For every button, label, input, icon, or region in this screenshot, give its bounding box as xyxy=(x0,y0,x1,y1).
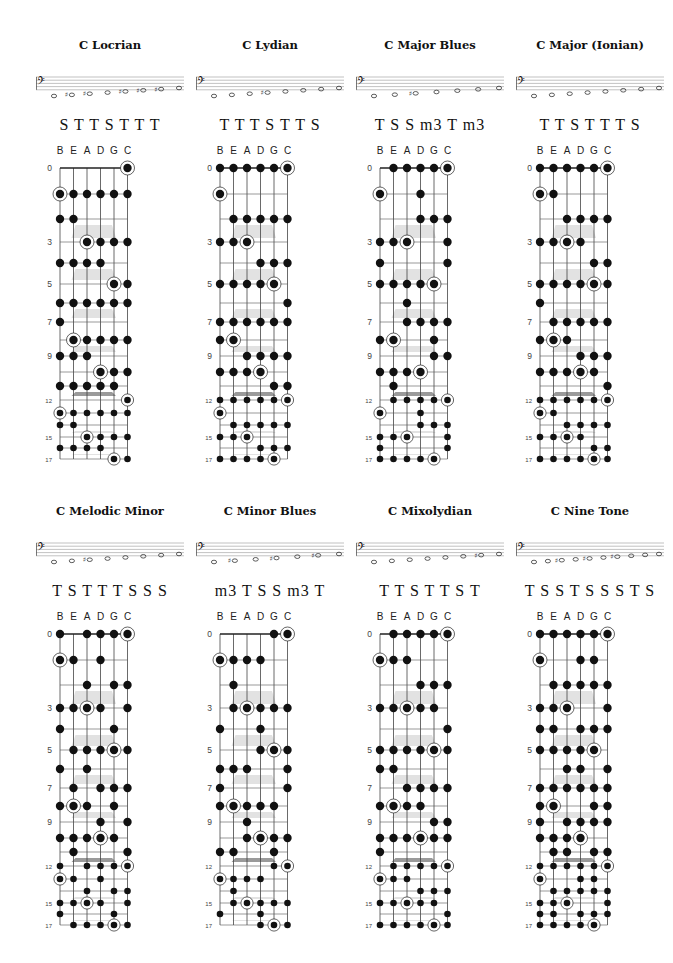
scale-note-dot xyxy=(603,215,611,223)
root-note-dot xyxy=(256,368,264,376)
root-note-dot xyxy=(123,630,131,638)
scale-note-dot xyxy=(390,456,397,463)
root-note-dot xyxy=(84,434,91,441)
scale-note-dot xyxy=(56,725,64,733)
scale-note-dot xyxy=(576,280,584,288)
scale-note-dot xyxy=(123,681,131,689)
scale-note-dot xyxy=(57,863,64,870)
root-note-dot xyxy=(536,190,544,198)
scale-note-dot xyxy=(536,280,544,288)
fret-number-label: 9 xyxy=(367,817,372,827)
scale-note-dot xyxy=(550,456,557,463)
scale-note-dot xyxy=(376,336,384,344)
scale-note-dot xyxy=(243,164,251,172)
root-note-dot xyxy=(591,922,598,929)
scale-note-dot xyxy=(270,802,278,810)
scale-note-dot xyxy=(576,725,584,733)
scale-note-dot xyxy=(537,397,544,404)
scale-note-dot xyxy=(389,164,397,172)
fret-number-label: 0 xyxy=(47,629,52,639)
scale-note-dot xyxy=(417,456,424,463)
scale-note-dot xyxy=(430,834,438,842)
fret-number-label: 0 xyxy=(527,163,532,173)
fret-inlay-marker xyxy=(232,431,277,433)
scale-note-dot xyxy=(431,888,438,895)
string-label: A xyxy=(84,145,91,156)
scale-note-dot xyxy=(270,259,278,267)
scale-note-dot xyxy=(591,445,598,452)
scale-note-dot xyxy=(110,834,118,842)
string-label: G xyxy=(270,611,278,622)
fret-inlay-marker xyxy=(392,858,437,862)
scale-note-dot xyxy=(243,215,251,223)
root-note-dot xyxy=(270,280,278,288)
scale-note-dot xyxy=(563,215,571,223)
root-note-dot xyxy=(284,863,291,870)
fret-inlay-marker xyxy=(552,858,597,862)
scale-note-dot xyxy=(577,876,584,883)
scale-note-dot xyxy=(56,215,64,223)
scale-note-dot xyxy=(430,215,438,223)
fret-number-label: 0 xyxy=(47,163,52,173)
scale-note-dot xyxy=(243,368,251,376)
scale-note-dot xyxy=(83,802,91,810)
scale-note-dot xyxy=(603,784,611,792)
root-note-dot xyxy=(83,238,91,246)
string-label: E xyxy=(390,611,397,622)
scale-note-dot xyxy=(550,434,557,441)
scale-note-dot xyxy=(403,164,411,172)
scale-note-dot xyxy=(56,765,64,773)
scale-note-dot xyxy=(84,445,91,452)
fret-inlay-marker xyxy=(552,775,597,784)
fretboard-diagram: 03579121517 xyxy=(510,504,670,944)
fret-inlay-marker xyxy=(392,691,437,704)
scale-note-dot xyxy=(83,630,91,638)
scale-note-dot xyxy=(56,704,64,712)
scale-note-dot xyxy=(69,215,77,223)
scale-note-dot xyxy=(603,765,611,773)
scale-note-dot xyxy=(563,834,571,842)
scale-note-dot xyxy=(403,656,411,664)
fret-inlay-marker xyxy=(72,346,117,352)
scale-note-dot xyxy=(96,656,104,664)
string-label: C xyxy=(124,145,131,156)
scale-note-dot xyxy=(123,368,131,376)
scale-note-dot xyxy=(216,802,224,810)
scale-note-dot xyxy=(603,280,611,288)
string-label: C xyxy=(124,611,131,622)
fret-inlay-marker xyxy=(72,858,117,862)
string-label: A xyxy=(564,611,571,622)
scale-note-dot xyxy=(57,445,64,452)
string-label: G xyxy=(430,611,438,622)
scale-note-dot xyxy=(563,681,571,689)
scale-note-dot xyxy=(110,784,118,792)
root-note-dot xyxy=(443,164,451,172)
scale-note-dot xyxy=(590,352,598,360)
fret-number-label: 9 xyxy=(527,817,532,827)
scale-note-dot xyxy=(550,911,557,918)
scale-note-dot xyxy=(389,834,397,842)
scale-note-dot xyxy=(389,238,397,246)
scale-note-dot xyxy=(69,382,77,390)
scale-note-dot xyxy=(443,818,451,826)
scale-note-dot xyxy=(216,784,224,792)
scale-note-dot xyxy=(283,784,291,792)
fret-inlay-marker xyxy=(392,309,437,318)
fret-number-label: 9 xyxy=(207,351,212,361)
string-label: E xyxy=(70,145,77,156)
scale-note-dot xyxy=(549,704,557,712)
scale-note-dot xyxy=(590,630,598,638)
scale-note-dot xyxy=(70,922,77,929)
scale-note-dot xyxy=(376,746,384,754)
scale-note-dot xyxy=(57,911,64,918)
fret-inlay-marker xyxy=(232,858,277,862)
scale-note-dot xyxy=(549,746,557,754)
scale-note-dot xyxy=(124,456,131,463)
scale-note-dot xyxy=(56,299,64,307)
string-label: A xyxy=(404,611,411,622)
scale-note-dot xyxy=(430,164,438,172)
fret-inlay-marker xyxy=(392,431,437,433)
scale-note-dot xyxy=(417,900,424,907)
scale-note-dot xyxy=(270,318,278,326)
scale-note-dot xyxy=(536,299,544,307)
